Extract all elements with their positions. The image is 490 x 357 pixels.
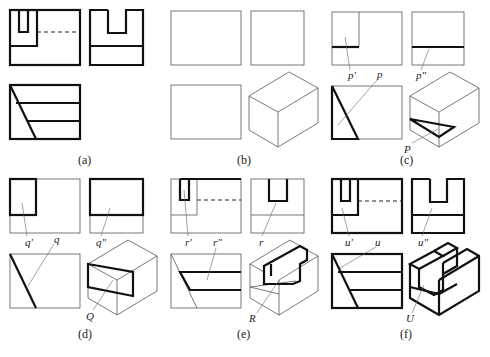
label-r-prime: r' [185, 236, 192, 248]
label-q-prime: q' [25, 236, 34, 248]
isometric-view: U [406, 243, 479, 324]
panel-f: u' u" u U (f) [332, 179, 479, 341]
caption-e: (e) [237, 327, 250, 341]
orthographic-projection-figure: (a) (b) p' p" p [0, 0, 490, 357]
front-view [10, 10, 80, 65]
label-Q: Q [86, 310, 94, 322]
isometric-view: P [403, 72, 479, 155]
top-view: r" [171, 236, 241, 308]
caption-d: (d) [78, 327, 92, 341]
label-q: q [54, 233, 60, 245]
side-view: q" [90, 179, 143, 248]
side-view: r [251, 179, 304, 248]
label-q-double-prime: q" [96, 236, 107, 248]
isometric-view: Q [86, 240, 157, 322]
label-R: R [248, 312, 256, 324]
caption-c: (c) [400, 153, 413, 167]
front-view: p' [332, 12, 402, 81]
front-view: u' [332, 179, 402, 248]
label-u: u [375, 236, 381, 248]
top-view: p [332, 68, 402, 139]
top-view: q [10, 233, 80, 308]
front-view [171, 11, 241, 65]
label-u-prime: u' [345, 236, 354, 248]
side-view [251, 11, 304, 65]
caption-b: (b) [237, 153, 251, 167]
label-u-double-prime: u" [418, 236, 429, 248]
caption-f: (f) [400, 327, 412, 341]
top-view [10, 85, 80, 139]
label-r: r [259, 236, 264, 248]
isometric-box [249, 72, 318, 147]
panel-a: (a) [10, 10, 143, 167]
label-p-double-prime: p" [415, 69, 427, 81]
side-view: p" [412, 12, 464, 81]
panel-c: p' p" p P (c) [332, 12, 479, 167]
side-view: u" [412, 179, 464, 248]
top-view: u [332, 236, 402, 308]
front-view: q' [10, 179, 80, 248]
label-U: U [406, 312, 415, 324]
isometric-view: R [248, 240, 318, 324]
label-r-double-prime: r" [213, 236, 222, 248]
panel-e: r' r r" R [171, 179, 318, 341]
side-view [90, 10, 143, 65]
front-view: r' [171, 179, 241, 248]
label-p: p [376, 68, 383, 80]
panel-b: (b) [171, 11, 318, 167]
label-p-prime: p' [347, 69, 357, 81]
panel-d: q' q" q Q (d) [10, 179, 157, 341]
top-view [171, 85, 241, 139]
caption-a: (a) [78, 153, 91, 167]
